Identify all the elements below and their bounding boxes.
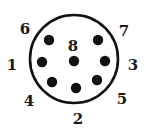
pin-1 [37,57,47,67]
pin-5 [92,75,102,85]
pin-labels-group: 12345678 [7,20,138,128]
pin-label-7: 7 [119,22,129,40]
pinout-svg: 12345678 [0,0,146,134]
pin-4 [47,77,57,87]
pin-label-6: 6 [20,20,30,38]
pin-label-8: 8 [68,37,78,55]
pin-3 [100,56,110,66]
pin-6 [44,35,54,45]
pin-label-5: 5 [117,90,127,108]
connector-pinout-diagram: 12345678 [0,0,146,134]
pin-7 [93,35,103,45]
pin-label-2: 2 [73,110,83,128]
pin-label-1: 1 [7,56,17,74]
pin-8 [69,56,79,66]
pin-2 [71,83,81,93]
pin-label-3: 3 [128,56,138,74]
pin-label-4: 4 [24,92,34,110]
